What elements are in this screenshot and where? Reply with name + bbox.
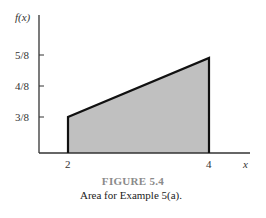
figure-caption: Area for Example 5(a).	[0, 189, 266, 201]
y-tick-label-4-8: 4/8	[15, 81, 29, 92]
y-tick-label-5-8: 5/8	[15, 50, 29, 61]
x-axis-label: x	[243, 159, 248, 170]
x-tick-label-4: 4	[206, 159, 212, 170]
y-axis-label: f(x)	[15, 12, 30, 23]
figure-number: FIGURE 5.4	[0, 175, 266, 187]
x-tick-label-2: 2	[65, 159, 71, 170]
y-tick-label-3-8: 3/8	[15, 112, 29, 123]
shaded-area	[68, 58, 209, 153]
